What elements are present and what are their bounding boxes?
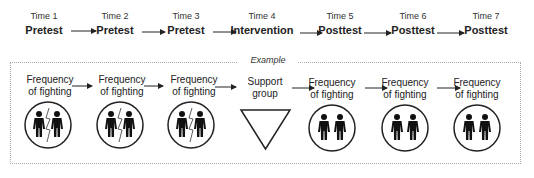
two-people-icon: [454, 105, 500, 151]
inverted-triangle-icon: [241, 110, 290, 149]
two-people-icon: [309, 105, 355, 151]
example-graphics: [0, 0, 534, 178]
two-people-fighting-icon: [25, 102, 71, 148]
two-people-fighting-icon: [168, 102, 214, 148]
two-people-fighting-icon: [97, 102, 143, 148]
two-people-icon: [382, 105, 428, 151]
